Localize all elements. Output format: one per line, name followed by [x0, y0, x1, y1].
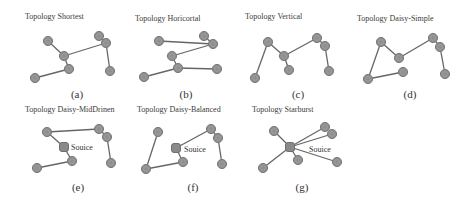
- node-circle: [173, 63, 182, 72]
- node-circle: [258, 163, 267, 172]
- edge: [64, 43, 106, 56]
- edge: [399, 38, 433, 58]
- node-circle: [154, 36, 163, 45]
- node-circle: [284, 65, 293, 74]
- node-circle: [212, 64, 221, 73]
- node-circle: [94, 31, 103, 40]
- panel-title: Topology Horicortal: [135, 14, 201, 23]
- node-circle: [269, 126, 278, 135]
- node-circle: [327, 129, 336, 138]
- edge: [144, 68, 178, 77]
- node-circle: [67, 156, 76, 165]
- panel-caption: (c): [292, 88, 305, 101]
- panel-c: Topology Vertical(c): [245, 12, 334, 101]
- node-circle: [398, 67, 407, 76]
- node-circle: [59, 51, 68, 60]
- node-circle: [394, 53, 403, 62]
- node-circle: [376, 37, 385, 46]
- panel-caption: (g): [296, 181, 309, 194]
- panel-title: Topology Vertical: [245, 12, 303, 21]
- edge: [159, 41, 213, 44]
- node-circle: [213, 133, 222, 142]
- node-circle: [435, 42, 444, 51]
- node-circle: [64, 64, 73, 73]
- source-label: Souice: [71, 143, 93, 152]
- source-node: [172, 144, 181, 153]
- edge: [368, 72, 403, 79]
- edge: [35, 69, 69, 78]
- node-circle: [332, 157, 341, 166]
- node-circle: [106, 158, 115, 167]
- edge: [146, 132, 158, 169]
- node-circle: [199, 31, 208, 40]
- edge: [178, 68, 217, 69]
- node-circle: [42, 127, 51, 136]
- node-circle: [440, 69, 449, 78]
- panel-e: Topology Daisy-MidDrinenSouice(e): [25, 105, 116, 194]
- panels-layer: Topology Shortest(a)Topology Horicortal(…: [25, 12, 450, 194]
- source-node: [286, 143, 295, 152]
- node-circle: [206, 124, 215, 133]
- panel-title: Topology Daisy-Balanced: [137, 105, 221, 114]
- node-circle: [153, 127, 162, 136]
- node-circle: [141, 164, 150, 173]
- node-circle: [178, 157, 187, 166]
- node-circle: [94, 124, 103, 133]
- node-circle: [293, 155, 302, 164]
- panel-b: Topology Horicortal(b): [135, 14, 222, 101]
- edge: [37, 161, 72, 168]
- node-circle: [428, 33, 437, 42]
- edge: [47, 129, 99, 132]
- node-circle: [263, 37, 272, 46]
- topology-figure: Topology Shortest(a)Topology Horicortal(…: [0, 0, 467, 215]
- node-circle: [102, 132, 111, 141]
- panel-title: Topology Shortest: [25, 12, 85, 21]
- node-circle: [320, 122, 329, 131]
- node-circle: [43, 36, 52, 45]
- edge: [146, 162, 183, 169]
- edge: [284, 38, 317, 56]
- panel-title: Topology Daisy-MidDrinen: [25, 105, 114, 114]
- panel-f: Topology Daisy-BalancedSouice(f): [137, 105, 227, 194]
- node-circle: [312, 33, 321, 42]
- node-circle: [167, 51, 176, 60]
- panel-d: Topology Daisy-Simple(d): [357, 14, 450, 101]
- panel-title: Topology Starburst: [252, 105, 314, 114]
- node-circle: [105, 66, 114, 75]
- node-circle: [250, 73, 259, 82]
- edge: [368, 42, 381, 79]
- source-label: Souice: [309, 145, 331, 154]
- source-node: [60, 143, 69, 152]
- edge: [172, 44, 213, 56]
- node-circle: [324, 66, 333, 75]
- node-circle: [208, 39, 217, 48]
- source-label: Souice: [184, 145, 206, 154]
- panel-caption: (d): [404, 88, 417, 101]
- node-circle: [101, 38, 110, 47]
- panel-a: Topology Shortest(a): [25, 12, 115, 101]
- node-circle: [217, 159, 226, 168]
- edge: [255, 42, 268, 78]
- node-circle: [279, 51, 288, 60]
- panel-title: Topology Daisy-Simple: [357, 14, 434, 23]
- panel-g: Topology StarburstSouice(g): [252, 105, 342, 194]
- node-circle: [32, 163, 41, 172]
- edge: [290, 127, 325, 147]
- panel-caption: (e): [72, 181, 85, 194]
- node-circle: [30, 73, 39, 82]
- panel-caption: (a): [71, 88, 84, 101]
- panel-caption: (f): [188, 181, 199, 194]
- node-circle: [363, 74, 372, 83]
- node-circle: [320, 41, 329, 50]
- node-circle: [139, 72, 148, 81]
- panel-caption: (b): [180, 88, 193, 101]
